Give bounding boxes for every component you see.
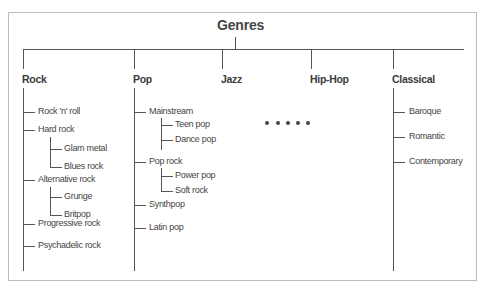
- classical-item: Baroque: [409, 106, 441, 117]
- genre-jazz: Jazz: [221, 73, 242, 85]
- rock-item: Rock 'n' roll: [38, 106, 80, 117]
- altrock-sub-trunk: [50, 187, 51, 216]
- classical-branch: [393, 112, 405, 113]
- mainstream-subitem: Teen pop: [175, 119, 210, 130]
- poprock-sub-branch: [161, 191, 173, 192]
- hardrock-subitem: Blues rock: [64, 161, 103, 172]
- root-title: Genres: [217, 17, 264, 33]
- classical-drop: [393, 49, 394, 69]
- hardrock-sub-trunk: [50, 137, 51, 168]
- pop-branch: [134, 162, 146, 163]
- pop-branch: [134, 112, 146, 113]
- classical-item: Romantic: [409, 131, 445, 142]
- jazz-drop: [222, 49, 223, 69]
- genre-classical: Classical: [392, 73, 435, 85]
- classical-branch: [393, 137, 405, 138]
- rock-item: Alternative rock: [38, 174, 95, 185]
- pop-item: Synthpop: [149, 199, 185, 210]
- rock-branch: [23, 112, 35, 113]
- rock-branch: [23, 224, 35, 225]
- classical-branch: [393, 162, 405, 163]
- hardrock-sub-branch: [50, 149, 62, 150]
- rock-item: Hard rock: [38, 124, 74, 135]
- rock-item: Progressive rock: [38, 218, 100, 229]
- rock-drop: [23, 49, 24, 69]
- pop-item: Mainstream: [149, 106, 193, 117]
- pop-branch: [134, 205, 146, 206]
- mainstream-sub-branch: [161, 125, 173, 126]
- pop-branch: [134, 228, 146, 229]
- classical-item: Contemporary: [409, 156, 462, 167]
- mainstream-sub-trunk: [161, 118, 162, 150]
- root-bar: [23, 49, 464, 50]
- poprock-sub-trunk: [161, 168, 162, 192]
- pop-item: Pop rock: [149, 156, 182, 167]
- genre-rock: Rock: [22, 73, 46, 85]
- rock-branch: [23, 130, 35, 131]
- rock-branch: [23, 246, 35, 247]
- classical-trunk: [393, 88, 394, 271]
- root-connector: [235, 37, 236, 49]
- rock-branch: [23, 180, 35, 181]
- poprock-subitem: Power pop: [175, 170, 215, 181]
- poprock-sub-branch: [161, 176, 173, 177]
- hardrock-sub-branch: [50, 167, 62, 168]
- poprock-subitem: Soft rock: [175, 185, 208, 196]
- altrock-sub-branch: [50, 215, 62, 216]
- altrock-sub-branch: [50, 197, 62, 198]
- genre-hiphop: Hip-Hop: [310, 73, 349, 85]
- mainstream-subitem: Dance pop: [175, 134, 216, 145]
- mainstream-sub-branch: [161, 140, 173, 141]
- altrock-subitem: Grunge: [64, 191, 92, 202]
- pop-trunk: [134, 88, 135, 271]
- pop-item: Latin pop: [149, 222, 183, 233]
- genre-pop: Pop: [133, 73, 152, 85]
- pop-drop: [134, 49, 135, 69]
- hiphop-drop: [311, 49, 312, 69]
- hardrock-subitem: Glam metal: [64, 143, 107, 154]
- rock-item: Psychadelic rock: [38, 240, 101, 251]
